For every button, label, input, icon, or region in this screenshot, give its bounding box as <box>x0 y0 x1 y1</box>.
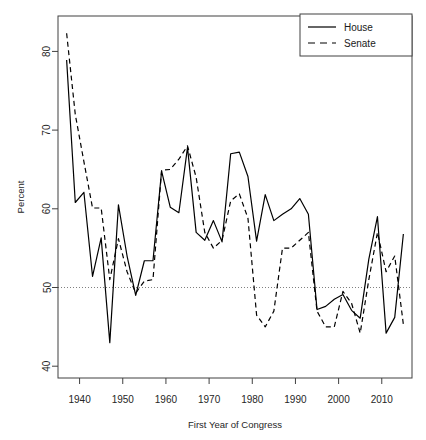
x-tick-label: 1980 <box>241 394 264 405</box>
legend-label-house: House <box>344 22 373 33</box>
x-tick-label: 2000 <box>327 394 350 405</box>
y-tick-label: 50 <box>42 282 53 294</box>
x-tick-label: 1960 <box>155 394 178 405</box>
y-tick-label: 70 <box>42 124 53 136</box>
legend: House Senate <box>300 14 412 56</box>
y-tick-label: 60 <box>42 203 53 215</box>
legend-box <box>300 14 412 56</box>
y-axis-ticks: 4050607080 <box>42 45 59 371</box>
x-tick-label: 1990 <box>284 394 307 405</box>
x-tick-label: 1940 <box>68 394 91 405</box>
y-tick-label: 40 <box>42 360 53 372</box>
x-axis-ticks: 19401950196019701980199020002010 <box>68 378 393 405</box>
line-chart-svg: 4050607080 19401950196019701980199020002… <box>0 0 426 440</box>
x-tick-label: 1970 <box>198 394 221 405</box>
y-tick-label: 80 <box>42 45 53 57</box>
legend-label-senate: Senate <box>344 38 376 49</box>
x-tick-label: 1950 <box>112 394 135 405</box>
x-axis-title: First Year of Congress <box>188 419 282 430</box>
chart-container: 4050607080 19401950196019701980199020002… <box>0 0 426 440</box>
y-axis-title: Percent <box>15 180 26 213</box>
x-tick-label: 2010 <box>371 394 394 405</box>
